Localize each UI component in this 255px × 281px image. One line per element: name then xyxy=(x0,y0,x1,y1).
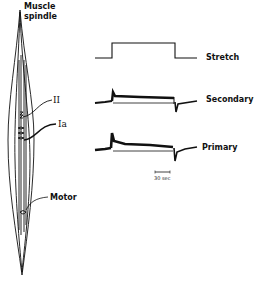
stretch-label: Stretch xyxy=(206,53,240,62)
primary-trace xyxy=(95,133,197,161)
scale-bar-label: 30 sec xyxy=(154,175,171,181)
muscle-spindle-figure: Muscle spindle II Ia Motor Stretch xyxy=(0,0,255,281)
label-primary-fiber-Ia: Ia xyxy=(58,119,68,129)
primary-label: Primary xyxy=(202,143,238,152)
label-secondary-fiber-II: II xyxy=(53,95,61,105)
spindle-title-line2: spindle xyxy=(24,12,57,21)
secondary-trace xyxy=(95,92,197,112)
spindle-title-line1: Muscle xyxy=(24,2,56,11)
motor-nerve-fiber xyxy=(26,197,48,210)
stretch-trace xyxy=(95,43,197,58)
secondary-label: Secondary xyxy=(206,95,254,104)
muscle-spindle-drawing xyxy=(8,10,34,275)
time-scale-bar: 30 sec xyxy=(154,171,171,182)
label-motor-fiber: Motor xyxy=(50,193,77,202)
